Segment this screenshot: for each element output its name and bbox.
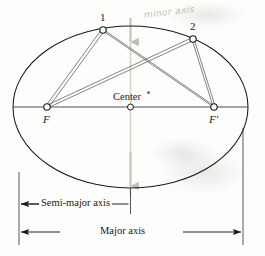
point-2-label: 2: [190, 21, 196, 32]
focus-left-label: F: [43, 114, 50, 125]
point-2-marker: [190, 36, 196, 42]
major-axis-label: Major axis: [98, 226, 147, 237]
ellipse-diagram: 1 2 F F′ Center Semi-major axis Major ax…: [0, 0, 265, 256]
chord-intersection-dot: [147, 91, 150, 94]
focal-radius-Fprime-to-2: [192, 39, 215, 106]
point-1-marker: [100, 27, 106, 33]
center-label: Center: [113, 92, 141, 103]
focus-left-marker: [44, 104, 50, 110]
diagram-canvas: [0, 0, 265, 256]
center-marker: [128, 104, 134, 110]
point-1-label: 1: [100, 12, 106, 23]
focus-right-label: F′: [209, 114, 218, 125]
focus-right-marker: [211, 104, 217, 110]
semi-major-axis-label: Semi-major axis: [39, 198, 112, 209]
